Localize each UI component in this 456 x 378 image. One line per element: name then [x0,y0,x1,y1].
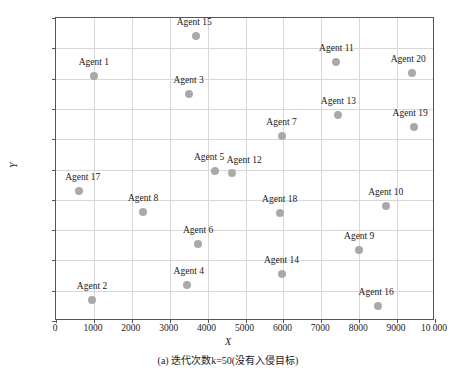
data-point-label: Agent 3 [173,75,203,85]
gridline-horizontal [56,79,433,80]
y-axis-tick [52,139,56,140]
data-point-label: Agent 14 [264,255,299,265]
data-point-label: Agent 17 [65,172,100,182]
x-axis-tick-label: 3000 [159,323,178,333]
y-axis-tick [52,48,56,49]
data-point-label: Agent 19 [393,108,428,118]
data-point-label: Agent 18 [262,194,297,204]
data-point [75,187,83,195]
data-point [183,281,191,289]
x-axis-tick-label: 7000 [311,323,330,333]
gridline-horizontal [56,230,433,231]
x-axis-tick-label: 1000 [83,323,102,333]
x-axis-tick-label: 10 000 [421,323,447,333]
data-point-label: Agent 16 [359,287,394,297]
data-point-label: Agent 20 [391,54,426,64]
gridline-horizontal [56,260,433,261]
data-point-label: Agent 12 [227,155,262,165]
data-point [278,132,286,140]
y-axis-tick [52,18,56,19]
x-axis-tick-label: 9000 [387,323,406,333]
x-axis-tick-label: 8000 [349,323,368,333]
y-axis-tick [52,260,56,261]
plot-area: Agent 1Agent 2Agent 3Agent 4Agent 5Agent… [55,17,434,320]
data-point-label: Agent 10 [368,187,403,197]
data-point [194,240,202,248]
x-axis-tick-label: 2000 [121,323,140,333]
y-axis-tick [52,109,56,110]
data-point-label: Agent 4 [174,266,204,276]
figure-caption: (a) 迭代次数k=50(没有入侵目标) [0,352,456,367]
data-point [185,90,193,98]
data-point-label: Agent 8 [128,193,158,203]
y-axis-tick [52,291,56,292]
data-point [410,123,418,131]
x-axis-tick-label: 5000 [235,323,254,333]
gridline-horizontal [56,200,433,201]
data-point [332,58,340,66]
data-point-label: Agent 9 [344,231,374,241]
data-point-label: Agent 15 [177,17,212,27]
gridline-vertical [132,18,133,319]
y-axis-tick [52,79,56,80]
data-point-label: Agent 1 [79,57,109,67]
data-point-label: Agent 11 [319,43,354,53]
gridline-vertical [246,18,247,319]
data-point [382,202,390,210]
data-point [90,72,98,80]
data-point [334,111,342,119]
data-point [408,69,416,77]
gridline-vertical [321,18,322,319]
data-point [374,302,382,310]
data-point-label: Agent 2 [77,281,107,291]
data-point-label: Agent 7 [266,117,296,127]
data-point [355,246,363,254]
scatter-plot-figure: 010002000300040005000600070008000900010 … [0,0,456,378]
y-axis-tick [52,321,56,322]
gridline-horizontal [56,48,433,49]
y-axis-tick [52,230,56,231]
y-axis-label: Y [8,162,19,168]
gridline-vertical [208,18,209,319]
x-axis-tick-label: 0 [53,323,58,333]
gridline-horizontal [56,170,433,171]
x-axis-label: X [0,336,456,347]
y-axis-tick [52,170,56,171]
gridline-vertical [359,18,360,319]
gridline-horizontal [56,109,433,110]
x-axis-tick-label: 6000 [273,323,292,333]
y-axis-tick [52,200,56,201]
data-point-label: Agent 13 [321,96,356,106]
data-point [88,296,96,304]
data-point [211,167,219,175]
data-point [192,32,200,40]
data-point [139,208,147,216]
x-axis-tick-label: 4000 [197,323,216,333]
gridline-horizontal [56,139,433,140]
data-point-label: Agent 6 [183,225,213,235]
data-point-label: Agent 5 [194,152,224,162]
data-point [228,169,236,177]
data-point [278,270,286,278]
gridline-vertical [170,18,171,319]
